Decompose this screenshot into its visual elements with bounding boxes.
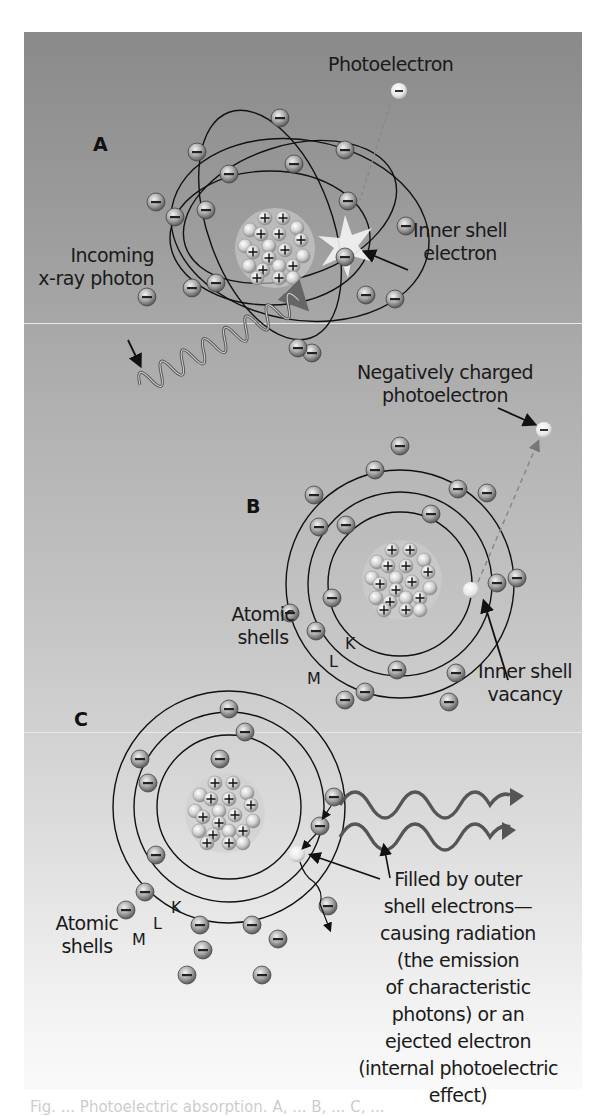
shell-m-label-c: M <box>132 928 145 951</box>
incoming-photon-label: Incoming x-ray photon <box>34 244 154 290</box>
shell-m-label-b: M <box>307 667 320 690</box>
atomic-shells-label-c: Atomic shells <box>52 912 122 958</box>
atomic-shells-label-b: Atomic shells <box>228 603 298 649</box>
shell-l-label-b: L <box>329 650 337 673</box>
shell-k-label-b: K <box>345 632 355 655</box>
panel-label-b: B <box>246 495 260 517</box>
inner-shell-electron-label: Inner shell electron <box>405 219 515 265</box>
shell-k-label-c: K <box>171 896 181 919</box>
panel-label-c: C <box>74 708 88 730</box>
inner-shell-vacancy-label: Inner shell vacancy <box>470 660 580 706</box>
panel-label-a: A <box>93 133 108 155</box>
figure-caption-partial: Fig. ... Photoelectric absorption. A, ..… <box>30 1098 384 1116</box>
photoelectron-label: Photoelectron <box>328 53 453 76</box>
shell-l-label-c: L <box>153 912 161 935</box>
panel-a-atom <box>128 83 444 395</box>
filled-by-outer-shell-description: Filled by outer shell electrons— causing… <box>358 866 558 1109</box>
negative-photoelectron-label: Negatively charged photoelectron <box>355 361 535 407</box>
